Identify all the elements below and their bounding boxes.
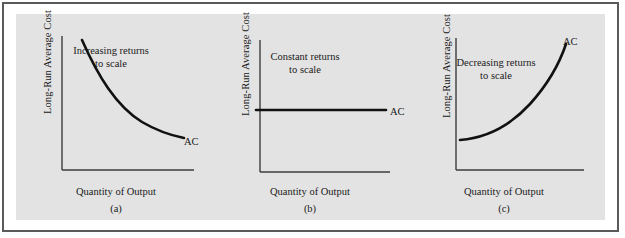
panel-a: Long-Run Average Cost Increasing returns… — [16, 14, 212, 220]
panel-c-annotation-line1: Decreasing returns — [426, 56, 566, 69]
panel-b-annotation-line1: Constant returns — [240, 50, 370, 63]
panel-b-x-axis-label: Quantity of Output — [212, 186, 408, 197]
panel-b-annotation-line2: to scale — [240, 63, 370, 76]
panel-b: Long-Run Average Cost Constant returns t… — [212, 14, 408, 220]
panel-c-x-axis-label: Quantity of Output — [406, 186, 602, 197]
panel-c-caption: (c) — [406, 203, 602, 214]
panel-a-curve-label: AC — [184, 136, 199, 147]
panel-c-annotation: Decreasing returns to scale — [426, 56, 566, 82]
figure-outer-border: Long-Run Average Cost Increasing returns… — [2, 2, 619, 232]
panel-b-annotation: Constant returns to scale — [240, 50, 370, 76]
panel-a-annotation: Increasing returns to scale — [46, 44, 176, 70]
panel-a-x-axis-label: Quantity of Output — [18, 186, 214, 197]
panel-c: Long-Run Average Cost Decreasing returns… — [408, 14, 604, 220]
panel-a-caption: (a) — [18, 203, 214, 214]
panel-c-annotation-line2: to scale — [426, 69, 566, 82]
panel-b-caption: (b) — [212, 203, 408, 214]
panel-a-annotation-line2: to scale — [46, 57, 176, 70]
panel-c-curve-label: AC — [563, 36, 578, 47]
panel-a-annotation-line1: Increasing returns — [46, 44, 176, 57]
figure-panel-background: Long-Run Average Cost Increasing returns… — [16, 14, 605, 220]
panel-b-curve-label: AC — [390, 106, 405, 117]
